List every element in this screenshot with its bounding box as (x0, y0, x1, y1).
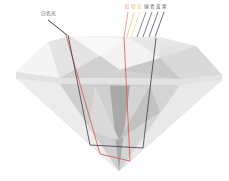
spectrum-label-green: 绿 (144, 5, 149, 10)
white-light-ray (48, 20, 67, 35)
spectrum-label-orange: 橙 (131, 5, 136, 10)
white-light-label: 白色光 (41, 12, 56, 17)
spectrum-label-cyan: 青 (150, 5, 155, 10)
spectrum-label-violet: 紫 (162, 5, 167, 10)
spectrum-label-yellow: 黄 (137, 5, 142, 10)
dispersed-spectrum-rays (124, 12, 164, 37)
diamond-illustration (0, 0, 229, 181)
spectrum-label-red: 红 (125, 5, 130, 10)
spectrum-label-blue: 蓝 (156, 5, 161, 10)
diamond-dispersion-diagram: 白色光 红 橙 黄 绿 青 蓝 紫 (0, 0, 229, 181)
